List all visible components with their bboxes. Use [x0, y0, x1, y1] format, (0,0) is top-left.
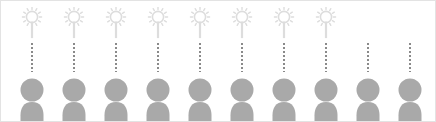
person-icon — [226, 77, 258, 122]
dotted-connector-icon — [241, 43, 243, 72]
dotted-connector-icon — [115, 43, 117, 72]
idea-bulb-icon — [103, 7, 129, 39]
dotted-connector-icon — [367, 43, 369, 72]
figure-stage — [1, 1, 436, 122]
dotted-connector-icon — [199, 43, 201, 72]
figure-column-10 — [389, 1, 431, 122]
dotted-connector-icon — [325, 43, 327, 72]
idea-bulb-icon — [313, 7, 339, 39]
person-icon — [310, 77, 342, 122]
person-icon — [100, 77, 132, 122]
idea-bulb-icon — [271, 7, 297, 39]
person-icon — [58, 77, 90, 122]
person-icon — [16, 77, 48, 122]
person-icon — [184, 77, 216, 122]
figure-column-6 — [221, 1, 263, 122]
figure-column-8 — [305, 1, 347, 122]
figure-column-5 — [179, 1, 221, 122]
person-icon — [394, 77, 426, 122]
dotted-connector-icon — [409, 43, 411, 72]
dotted-connector-icon — [31, 43, 33, 72]
figure-column-7 — [263, 1, 305, 122]
idea-bulb-icon — [61, 7, 87, 39]
dotted-connector-icon — [157, 43, 159, 72]
person-icon — [142, 77, 174, 122]
figure-column-9 — [347, 1, 389, 122]
figure-column-1 — [11, 1, 53, 122]
figure-column-4 — [137, 1, 179, 122]
dotted-connector-icon — [73, 43, 75, 72]
idea-bulb-icon — [187, 7, 213, 39]
figure-canvas — [0, 0, 436, 122]
person-icon — [268, 77, 300, 122]
figure-column-3 — [95, 1, 137, 122]
idea-bulb-icon — [145, 7, 171, 39]
person-icon — [352, 77, 384, 122]
figure-column-2 — [53, 1, 95, 122]
idea-bulb-icon — [19, 7, 45, 39]
dotted-connector-icon — [283, 43, 285, 72]
idea-bulb-icon — [229, 7, 255, 39]
